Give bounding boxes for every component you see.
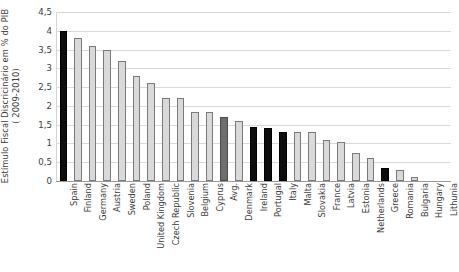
- x-axis-tick-label: Bulgaria: [418, 183, 427, 217]
- bar: [264, 128, 272, 181]
- x-axis-tick-label: France: [330, 183, 339, 210]
- bar-series: [56, 12, 451, 181]
- x-axis-tick-label: Sweden: [125, 183, 134, 215]
- y-axis-tick-label: 2,5: [26, 83, 52, 92]
- y-axis-tick-label: 4,5: [26, 8, 52, 17]
- bar: [118, 61, 126, 181]
- bar: [162, 98, 170, 181]
- x-axis-tick-label: Lithunia: [447, 183, 456, 216]
- x-axis-tick-label: Poland: [140, 183, 149, 210]
- y-axis-tick-label: 0,5: [26, 158, 52, 167]
- bar: [206, 112, 214, 181]
- y-axis-tick-label: 2: [26, 101, 52, 110]
- x-axis-tick-label: Denmark: [242, 183, 251, 221]
- y-axis-tick-label: 1: [26, 139, 52, 148]
- x-axis-tick-label: Ireland: [257, 183, 266, 211]
- y-axis-tick-label: 4: [26, 26, 52, 35]
- x-axis-tick-label: Finland: [81, 183, 90, 212]
- x-axis-tick-label: Greece: [388, 183, 397, 212]
- bar: [367, 158, 375, 181]
- x-axis-tick-label: Avg.: [227, 183, 236, 201]
- y-axis-tick-label: 3: [26, 64, 52, 73]
- bar: [279, 132, 287, 181]
- bar: [352, 153, 360, 181]
- x-axis-tick-label: Romania: [403, 183, 412, 219]
- x-axis-tick-label: Slovakia: [315, 183, 324, 217]
- x-axis-tick-label: Belgium: [198, 183, 207, 217]
- bar: [60, 31, 68, 181]
- bar: [396, 170, 404, 181]
- bar: [323, 140, 331, 181]
- x-axis-tick-label: Germany: [96, 183, 105, 221]
- x-axis-tick-label: Spain: [67, 183, 76, 206]
- bar: [308, 132, 316, 181]
- bar: [250, 127, 258, 181]
- x-axis-tick-label: Latvia: [344, 183, 353, 208]
- y-axis-tick-label: 3,5: [26, 45, 52, 54]
- x-axis-tick-label: Czech Republic: [169, 183, 178, 245]
- bar: [411, 177, 419, 181]
- bar: [381, 168, 389, 181]
- x-axis-tick-label: Slovenia: [184, 183, 193, 218]
- bar: [235, 121, 243, 181]
- x-axis-tick-label: Portugal: [271, 183, 280, 217]
- x-axis-tick-label: Netherlands: [374, 183, 383, 233]
- y-axis-tick-label: 1,5: [26, 120, 52, 129]
- bar: [220, 117, 228, 181]
- bar: [191, 112, 199, 181]
- x-axis-tick-label: Cyprus: [213, 183, 222, 212]
- x-axis-tick-label: Malta: [301, 183, 310, 206]
- bar: [89, 46, 97, 181]
- x-axis-tick-label: Estonia: [359, 183, 368, 213]
- bar: [147, 83, 155, 181]
- y-axis-tick-labels: 00,511,522,533,544,5: [26, 12, 52, 181]
- bar: [337, 142, 345, 181]
- bar: [294, 132, 302, 181]
- y-axis-title-line1: Estímulo Fiscal Discricinário em % do PI…: [0, 0, 11, 192]
- bar: [74, 38, 82, 181]
- y-axis-title-line2: ( 2009-2010): [11, 0, 22, 192]
- plot-area: [56, 12, 451, 181]
- x-axis-tick-label: Hungary: [432, 183, 441, 218]
- y-axis-tick-label: 0: [26, 177, 52, 186]
- x-axis-tick-label: United Kingdom: [154, 183, 163, 249]
- x-axis-tick-labels: SpainFinlandGermanyAustriaSwedenPolandUn…: [56, 183, 451, 272]
- bar: [103, 50, 111, 181]
- x-axis-tick-label: Italy: [286, 183, 295, 201]
- bar: [133, 76, 141, 181]
- bar: [177, 98, 185, 181]
- x-axis-tick-label: Austria: [110, 183, 119, 212]
